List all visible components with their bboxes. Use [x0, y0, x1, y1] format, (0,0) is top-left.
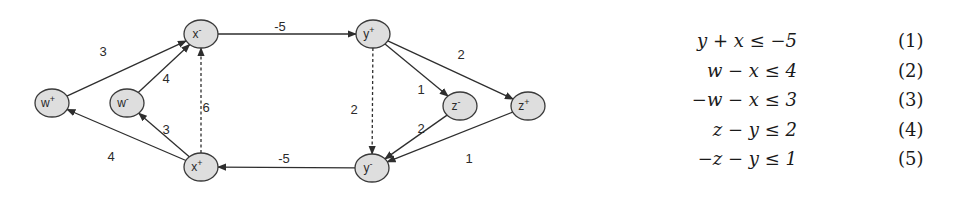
edge-weight-label: -5 [274, 19, 286, 34]
equation-expression: w − x ≤ 4 [707, 60, 797, 81]
node-x-minus: x- [184, 20, 218, 48]
edge-weight-label: -5 [278, 151, 290, 166]
equation-number: (4) [898, 119, 924, 140]
equation-row: −w − x ≤ 3 (3) [640, 89, 940, 119]
edge-weight-label: 4 [162, 71, 169, 86]
edge-z-plus-to-y-minus [387, 112, 512, 162]
equation-row: z − y ≤ 2 (4) [640, 119, 940, 149]
edge-weight-label: 1 [465, 151, 472, 166]
equation-expression: −z − y ≤ 1 [698, 148, 797, 169]
edge-weight-label: 6 [202, 100, 209, 115]
node-w-minus: w- [110, 89, 144, 117]
node-z-minus: z- [443, 92, 477, 120]
equation-row: y + x ≤ −5 (1) [640, 30, 940, 60]
equation-row: −z − y ≤ 1 (5) [640, 148, 940, 178]
edge-y-plus-to-z-plus [388, 41, 513, 99]
constraint-graph: w+w-x-x+y+y-z-z+ 34634-5-521221 [0, 0, 620, 222]
constraint-equations: y + x ≤ −5 (1) w − x ≤ 4 (2) −w − x ≤ 3 … [640, 30, 940, 178]
edge-weight-label: 2 [350, 102, 357, 117]
edge-weight-label: 1 [417, 82, 424, 97]
edge-w-plus-to-x-minus [67, 41, 186, 96]
equation-number: (2) [898, 60, 924, 81]
equation-expression: −w − x ≤ 3 [692, 89, 797, 110]
node-z-plus: z+ [511, 92, 545, 120]
edge-y-minus-to-x-plus [218, 167, 355, 168]
node-x-plus: x+ [184, 153, 218, 181]
edge-weight-label: 3 [162, 122, 169, 137]
equation-number: (3) [898, 89, 924, 110]
node-y-minus: y- [355, 154, 389, 182]
edge-labels: 34634-5-521221 [99, 19, 472, 166]
equation-number: (1) [898, 30, 924, 51]
equation-row: w − x ≤ 4 (2) [640, 60, 940, 90]
edge-y-plus-to-y-minus [372, 48, 373, 154]
node-y-plus: y+ [356, 20, 390, 48]
equation-expression: z − y ≤ 2 [713, 119, 797, 140]
edge-weight-label: 3 [99, 44, 106, 59]
equation-number: (5) [898, 148, 924, 169]
edge-weight-label: 2 [417, 121, 424, 136]
node-w-plus: w+ [35, 89, 69, 117]
edge-weight-label: 4 [107, 149, 114, 164]
edge-z-minus-to-y-minus [385, 115, 447, 159]
equation-expression: y + x ≤ −5 [697, 30, 797, 51]
edge-weight-label: 2 [457, 47, 464, 62]
